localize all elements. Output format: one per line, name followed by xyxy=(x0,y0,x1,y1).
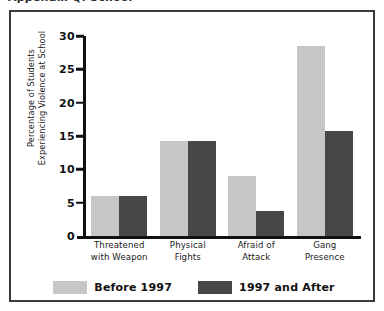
y-tick-label: 25 xyxy=(59,63,75,76)
y-tick-label: 0 xyxy=(67,230,75,243)
y-tick-mark xyxy=(76,168,84,171)
y-tick-mark xyxy=(76,201,84,204)
x-category-label-line: Gang xyxy=(283,240,368,252)
y-axis-tick-labels: 051015202530 xyxy=(49,12,75,304)
y-axis-title-line-2: Experiencing Violence at School xyxy=(37,8,48,188)
y-tick-mark xyxy=(76,135,84,138)
y-tick-mark xyxy=(76,101,84,104)
bar[interactable] xyxy=(91,196,119,236)
legend-label: Before 1997 xyxy=(94,281,172,294)
x-category-label: GangPresence xyxy=(283,240,368,263)
bar[interactable] xyxy=(119,196,147,236)
legend-swatch xyxy=(198,281,232,294)
x-axis-line xyxy=(77,236,361,239)
x-category-label-line: Presence xyxy=(283,252,368,264)
bar-group xyxy=(154,12,223,236)
legend-swatch xyxy=(53,281,87,294)
y-tick-label: 20 xyxy=(59,96,75,109)
bar[interactable] xyxy=(188,141,216,236)
bar-series-container xyxy=(85,12,359,236)
bar-group xyxy=(291,12,360,236)
bar-chart-plot: Percentage of Students Experiencing Viol… xyxy=(11,12,377,304)
y-axis-title-line-1: Percentage of Students xyxy=(26,8,37,188)
cut-off-title-fragment: Appendix Q: School xyxy=(8,0,208,3)
y-tick-label: 15 xyxy=(59,130,75,143)
y-tick-label: 10 xyxy=(59,163,75,176)
y-tick-mark xyxy=(76,35,84,38)
y-tick-label: 5 xyxy=(67,196,75,209)
bar[interactable] xyxy=(256,211,284,236)
chart-figure-frame: Percentage of Students Experiencing Viol… xyxy=(9,10,375,302)
y-tick-label: 30 xyxy=(59,30,75,43)
bar-group xyxy=(222,12,291,236)
bar[interactable] xyxy=(160,141,188,236)
x-axis-category-labels: Threatenedwith WeaponPhysicalFightsAfrai… xyxy=(85,240,359,274)
bar-group xyxy=(85,12,154,236)
chart-legend: Before 19971997 and After xyxy=(11,276,377,298)
legend-entry[interactable]: 1997 and After xyxy=(198,281,335,294)
y-axis-title: Percentage of Students Experiencing Viol… xyxy=(26,8,48,188)
bar[interactable] xyxy=(228,176,256,236)
y-tick-mark xyxy=(76,68,84,71)
legend-entry[interactable]: Before 1997 xyxy=(53,281,172,294)
legend-label: 1997 and After xyxy=(239,281,335,294)
bar[interactable] xyxy=(297,46,325,236)
bar[interactable] xyxy=(325,131,353,236)
